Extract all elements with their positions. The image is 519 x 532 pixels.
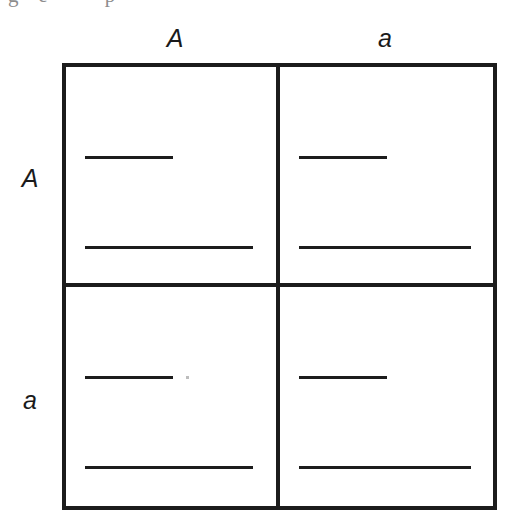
punnett-cell-A-A[interactable] <box>66 67 280 287</box>
punnett-grid <box>62 63 497 510</box>
answer-line-lower[interactable] <box>299 466 471 469</box>
answer-line-upper[interactable] <box>299 156 387 159</box>
answer-line-lower[interactable] <box>85 466 253 469</box>
answer-line-upper[interactable] <box>85 156 173 159</box>
column-label-A: A <box>145 26 205 51</box>
answer-line-upper[interactable] <box>299 376 387 379</box>
answer-line-lower[interactable] <box>299 246 471 249</box>
punnett-square-figure: g e p A a A a <box>0 0 519 532</box>
column-label-a: a <box>355 26 415 51</box>
scan-speck <box>186 376 189 379</box>
answer-line-upper[interactable] <box>85 376 173 379</box>
punnett-cell-a-A[interactable] <box>66 287 280 507</box>
punnett-cell-A-a[interactable] <box>280 67 494 287</box>
answer-line-lower[interactable] <box>85 246 253 249</box>
cropped-text-glyphs: g e p <box>8 0 116 8</box>
row-label-a: a <box>0 388 60 413</box>
row-label-A: A <box>0 166 60 191</box>
cropped-text-remnant: g e p <box>0 0 519 9</box>
punnett-cell-a-a[interactable] <box>280 287 494 507</box>
